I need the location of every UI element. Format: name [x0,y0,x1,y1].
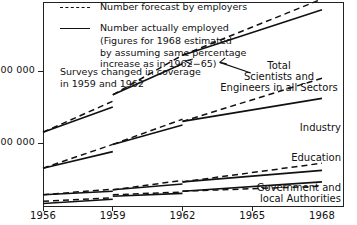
annotation-arrowhead-total-left [185,59,193,65]
chart-figure: 100 000200 000 19561959196219651968 Numb… [0,0,357,225]
series-line-forecast-total [43,101,113,132]
series-label-total-line-2: Scientists and [214,71,344,82]
series-label-total-line-1: Total [214,60,344,71]
series-label-government-line-2: local Authorities [230,193,341,204]
series-label-total-line-3: Engineers in all Sectors [214,82,344,93]
series-line-forecast-total [113,55,183,95]
series-label-industry: Industry [244,122,341,133]
series-line-forecast-industry [113,119,183,144]
series-line-actual-industry [43,152,113,169]
series-line-forecast-total [183,0,323,55]
series-label-total: Total Scientists and Engineers in all Se… [214,60,344,93]
series-line-actual-total [43,107,113,132]
series-line-forecast-industry [43,144,113,168]
series-line-actual-industry [113,125,183,144]
series-label-education: Education [234,152,341,163]
series-label-government-line-1: Government and [230,182,341,193]
series-line-actual-industry [183,98,323,121]
series-label-government: Government and local Authorities [230,182,341,204]
series-line-actual-total [113,64,183,95]
series-line-actual-total [183,10,323,55]
